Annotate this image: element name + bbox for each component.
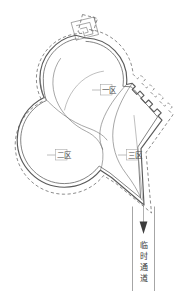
site-plan-diagram: 一区 二区 三区 临 时 通 道 bbox=[0, 0, 187, 295]
main-wall-inner-line bbox=[21, 39, 158, 198]
plan-drawing: 一区 二区 三区 临 时 通 道 bbox=[0, 0, 187, 295]
zone1-inner-arc bbox=[65, 71, 104, 110]
passage-label-char-1: 临 bbox=[140, 240, 148, 250]
entrance-structure bbox=[72, 17, 99, 40]
zone-3-label: 三区 bbox=[128, 151, 143, 160]
main-wall-outline bbox=[17, 35, 162, 205]
zone-1-label: 一区 bbox=[102, 86, 117, 95]
zone-label-group-2: 二区 bbox=[47, 150, 72, 161]
passage-label-char-4: 道 bbox=[140, 273, 148, 283]
passage-label-char-3: 通 bbox=[140, 262, 148, 272]
zone-2-label: 二区 bbox=[57, 151, 72, 160]
temporary-passage-label: 临 时 通 道 bbox=[140, 240, 148, 283]
outer-dashed-boundary bbox=[15, 15, 173, 214]
zone-label-group-1: 一区 bbox=[92, 85, 117, 96]
passage-label-char-2: 时 bbox=[140, 251, 148, 261]
passage-direction-arrow bbox=[140, 222, 148, 235]
zone-label-group-3: 三区 bbox=[118, 150, 143, 161]
